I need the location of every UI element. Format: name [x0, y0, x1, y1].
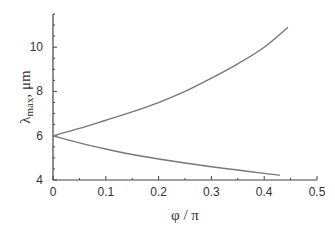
- y-axis-unit: , μm: [17, 70, 33, 98]
- y-tick-label: 4: [36, 173, 43, 187]
- x-tick-label: 0.4: [256, 185, 273, 199]
- chart: 00.10.20.30.40.546810 φ / π λmax, μm: [0, 0, 335, 229]
- x-axis-title: φ / π: [171, 207, 199, 223]
- y-tick-label: 8: [36, 84, 43, 98]
- axes: 00.10.20.30.40.546810: [30, 14, 326, 199]
- y-tick-label: 10: [30, 40, 44, 54]
- y-tick-label: 6: [36, 129, 43, 143]
- x-tick-label: 0.2: [150, 185, 167, 199]
- upper-curve: [53, 27, 288, 135]
- svg-text:λmax, μm: λmax, μm: [17, 70, 35, 124]
- data-series: [53, 27, 288, 175]
- y-axis-title: λmax, μm: [17, 70, 35, 124]
- x-tick-label: 0.1: [97, 185, 114, 199]
- x-tick-label: 0: [50, 185, 57, 199]
- y-axis-subscript: max: [23, 97, 35, 116]
- x-tick-label: 0.5: [309, 185, 326, 199]
- lower-curve: [53, 136, 280, 175]
- x-tick-label: 0.3: [203, 185, 220, 199]
